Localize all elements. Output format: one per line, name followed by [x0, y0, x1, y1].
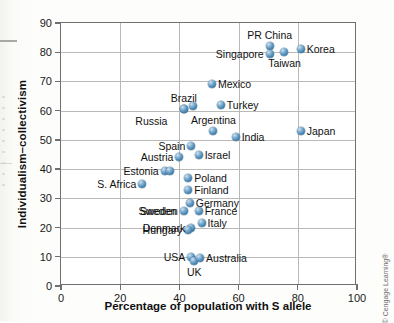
data-point-label: Mexico [218, 79, 251, 90]
y-tick-label: 50 [40, 134, 52, 146]
gridline-horizontal [61, 169, 355, 170]
scan-artifact-specks [2, 96, 5, 192]
gridline-horizontal [61, 140, 355, 141]
y-tick [55, 198, 61, 199]
y-tick-label: 70 [40, 75, 52, 87]
data-point-label: Estonia [124, 165, 159, 176]
data-point-label: Korea [307, 44, 335, 55]
data-point [184, 186, 192, 194]
gridline-vertical [239, 23, 240, 284]
data-point-label: Australia [206, 253, 247, 264]
data-point [208, 80, 216, 88]
y-tick-label: 10 [40, 251, 52, 263]
data-point-label: France [205, 206, 238, 217]
data-point-label: India [242, 132, 265, 143]
data-point-label: Spain [158, 140, 185, 151]
data-point-label: Italy [208, 218, 227, 229]
data-point-label: Taiwan [268, 58, 301, 69]
data-point-label: Russia [135, 116, 167, 127]
data-point [175, 153, 183, 161]
data-point-label: Finland [194, 184, 228, 195]
data-point [186, 199, 194, 207]
copyright-notice: © Cengage Learning® [380, 258, 392, 318]
data-point-label: Turkey [227, 100, 259, 111]
copyright-text: © Cengage Learning® [383, 253, 390, 323]
y-axis-title-text: Individualism–collectivism [16, 79, 28, 227]
y-tick [55, 168, 61, 169]
y-tick-label: 30 [40, 192, 52, 204]
x-tick [356, 284, 357, 290]
data-point-label: Sweden [138, 206, 176, 217]
data-point-label: S. Africa [97, 178, 136, 189]
x-tick [179, 284, 180, 290]
y-tick-label: 80 [40, 46, 52, 58]
x-axis-title: Percentage of population with S allele [60, 300, 356, 312]
data-point [138, 180, 146, 188]
y-tick [55, 139, 61, 140]
x-axis-title-text: Percentage of population with S allele [104, 300, 311, 312]
y-axis-title: Individualism–collectivism [14, 22, 30, 285]
data-point-label: Argentina [191, 115, 236, 126]
data-point [166, 167, 174, 175]
y-tick-label: 90 [40, 17, 52, 29]
x-tick [60, 284, 61, 290]
y-tick [55, 256, 61, 257]
y-tick-label: 20 [40, 222, 52, 234]
y-tick-label: 40 [40, 163, 52, 175]
data-point-label: USA [164, 252, 186, 263]
y-tick [55, 227, 61, 228]
y-tick [55, 110, 61, 111]
data-point-label: Japan [307, 126, 336, 137]
y-tick-label: 60 [40, 105, 52, 117]
data-point-label: Hungary [143, 225, 183, 236]
x-tick [238, 284, 239, 290]
data-point [180, 207, 188, 215]
data-point-label: Israel [205, 149, 231, 160]
data-point-label: UK [187, 267, 202, 278]
data-point-label: Poland [194, 173, 227, 184]
gridline-vertical [120, 23, 121, 284]
data-point-label: Brazil [171, 93, 197, 104]
x-tick [120, 284, 121, 290]
data-point [195, 207, 203, 215]
y-tick [55, 22, 61, 23]
data-point-label: PR China [247, 30, 292, 41]
data-point [196, 254, 204, 262]
data-point [209, 127, 217, 135]
y-tick [55, 52, 61, 53]
data-point [232, 133, 240, 141]
data-point [217, 101, 225, 109]
plot-area: 0102030405060708090 020406080100 PR Chin… [60, 22, 356, 285]
data-point [297, 127, 305, 135]
data-point-label: Austria [141, 152, 174, 163]
data-point [195, 151, 203, 159]
scan-artifact-line [0, 163, 12, 164]
data-point-label: Singapore [216, 48, 264, 59]
data-point [180, 105, 188, 113]
y-tick [55, 81, 61, 82]
y-tick-label: 0 [46, 280, 52, 292]
data-point [184, 174, 192, 182]
data-point [187, 142, 195, 150]
gridline-horizontal [61, 111, 355, 112]
x-tick [297, 284, 298, 290]
data-point [198, 219, 206, 227]
data-point [280, 48, 288, 56]
